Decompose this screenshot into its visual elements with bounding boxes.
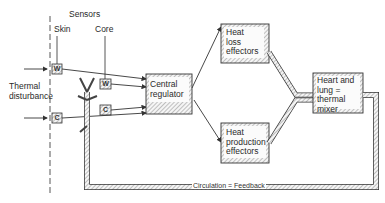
circulation-feedback-label: Circulation = Feedback (192, 182, 266, 189)
skin-cold-label: C (52, 114, 62, 121)
heart-lung-label: Heart and lung = thermal mixer (317, 76, 354, 114)
thermal-disturbance-label: Thermal disturbance (9, 82, 53, 101)
central-regulator-label: Central regulator (150, 80, 184, 99)
heat-production-label: Heat production effectors (226, 128, 266, 157)
skin-warm-label: W (52, 65, 62, 72)
sensors-label: Sensors (69, 10, 100, 20)
skin-label: Skin (54, 25, 71, 35)
core-label: Core (95, 25, 113, 35)
core-cold-label: C (100, 106, 111, 113)
heat-loss-label: Heat loss effectors (226, 28, 258, 57)
core-warm-label: W (100, 80, 111, 87)
